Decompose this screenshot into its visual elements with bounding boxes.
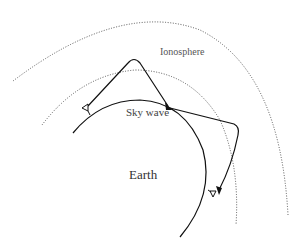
sky-wave-path-1 — [88, 60, 168, 107]
arrowhead-2 — [216, 186, 222, 195]
ionosphere-label: Ionosphere — [160, 46, 204, 57]
receiver-antenna-icon — [208, 190, 216, 197]
sky-wave-diagram — [0, 0, 307, 247]
inner-ionosphere-arc — [42, 70, 237, 225]
earth-label: Earth — [129, 167, 157, 183]
outer-ionosphere-arc — [13, 22, 288, 215]
sky-wave-label: Sky wave — [126, 106, 169, 118]
sky-wave-path-2 — [170, 108, 239, 190]
